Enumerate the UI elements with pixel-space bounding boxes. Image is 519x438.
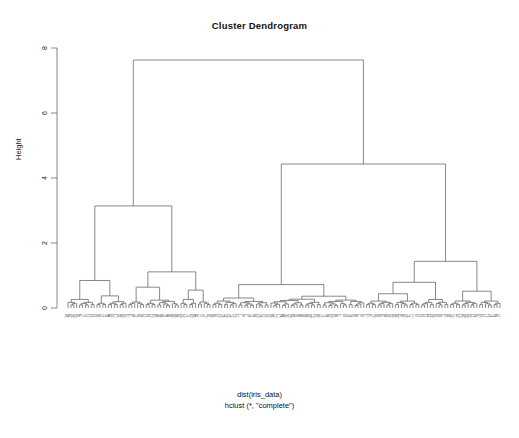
caption-line-2: hclust (*, "complete") [0,400,519,411]
svg-text:0: 0 [41,306,48,310]
svg-text:4: 4 [41,176,48,180]
dendrogram-tree [68,60,500,308]
svg-text:6: 6 [41,111,48,115]
y-axis: 02468 [41,46,57,310]
svg-text:2: 2 [41,241,48,245]
dendrogram-plot: Cluster Dendrogram Height 02468 15099104… [0,0,519,438]
svg-text:27: 27 [497,313,501,316]
plot-caption: dist(iris_data) hclust (*, "complete") [0,389,519,411]
leaf-labels: 1509910414046821724797739572315598140117… [65,313,501,318]
caption-line-1: dist(iris_data) [0,389,519,400]
dendrogram-canvas: 02468 1509910414046821724797739572315598… [0,0,519,438]
svg-text:8: 8 [41,46,48,50]
